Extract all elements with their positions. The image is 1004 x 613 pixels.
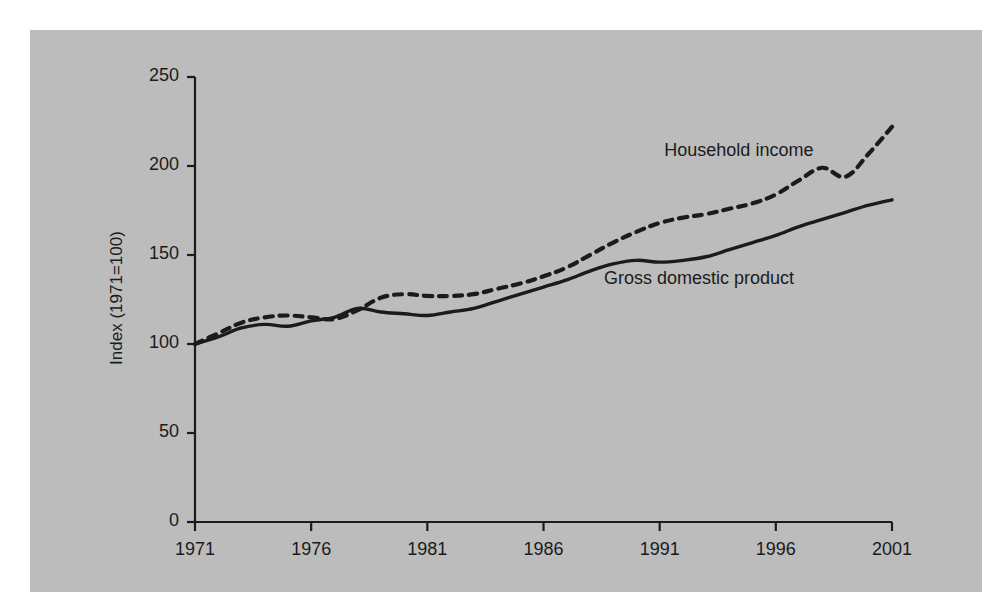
y-tick-label: 0 bbox=[119, 510, 179, 531]
y-axis-title: Index (1971=100) bbox=[107, 198, 127, 398]
x-tick-label: 1996 bbox=[736, 539, 816, 560]
x-tick-label: 1976 bbox=[271, 539, 351, 560]
x-tick-label: 1991 bbox=[620, 539, 700, 560]
y-tick-label: 100 bbox=[119, 332, 179, 353]
x-tick-label: 1986 bbox=[504, 539, 584, 560]
tick-label-layer: 050100150200250 197119761981198619911996… bbox=[0, 0, 1004, 613]
series-annotation-label: Gross domestic product bbox=[604, 268, 794, 289]
y-tick-label: 200 bbox=[119, 154, 179, 175]
y-tick-label: 250 bbox=[119, 65, 179, 86]
x-tick-label: 1981 bbox=[387, 539, 467, 560]
x-tick-label: 2001 bbox=[852, 539, 932, 560]
series-annotation-label: Household income bbox=[664, 140, 813, 161]
y-tick-label: 50 bbox=[119, 421, 179, 442]
y-tick-label: 150 bbox=[119, 243, 179, 264]
chart-figure: 050100150200250 197119761981198619911996… bbox=[0, 0, 1004, 613]
x-tick-label: 1971 bbox=[155, 539, 235, 560]
